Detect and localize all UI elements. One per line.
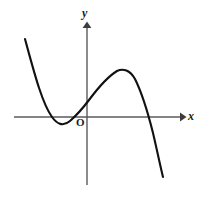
y-axis-label: y [82,7,87,19]
y-axis-arrow-icon [83,22,92,29]
origin-label: O [76,117,85,128]
cubic-curve [25,39,163,177]
x-axis-arrow-icon [180,113,187,122]
plot-canvas [0,0,203,198]
cubic-function-graph: y x O [0,0,203,198]
x-axis-label: x [188,110,194,122]
